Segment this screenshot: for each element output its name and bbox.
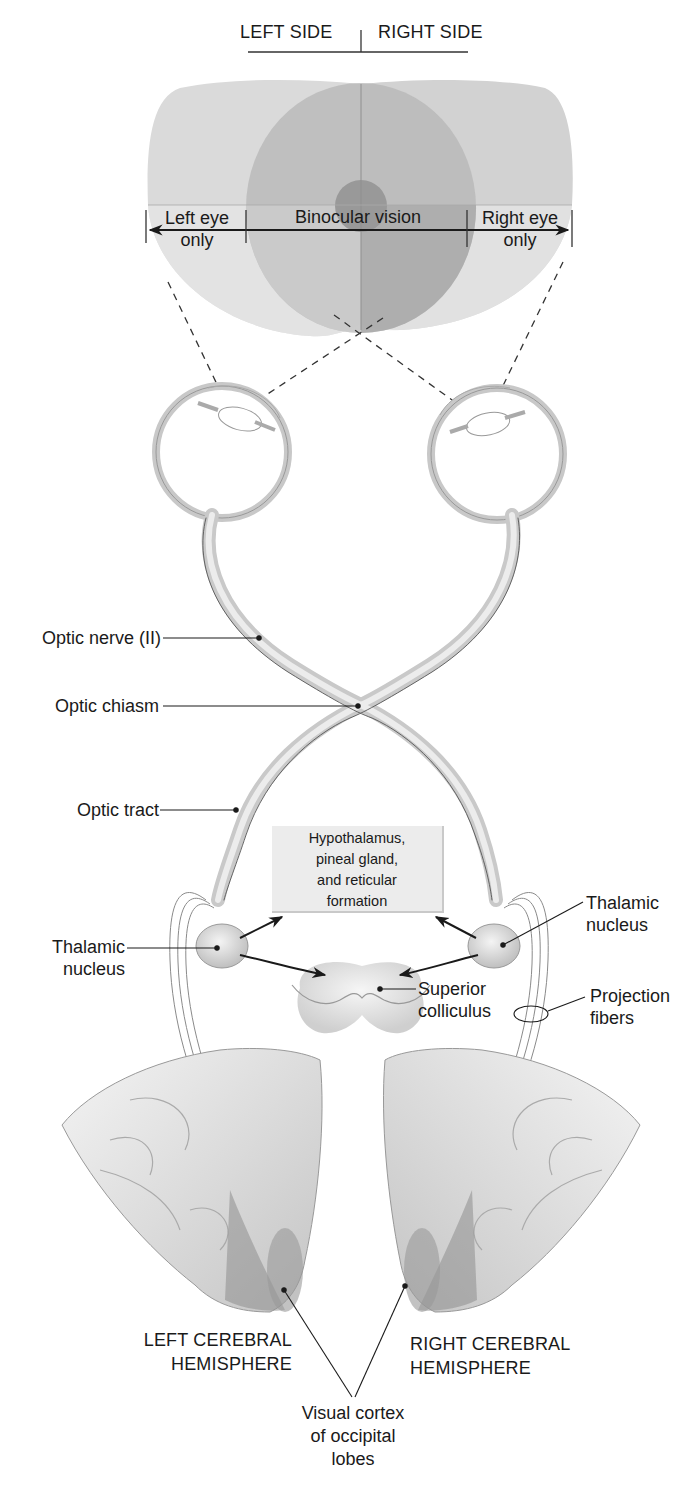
right-side-label: RIGHT SIDE: [378, 22, 483, 43]
thalamic-nucleus-left-label: Thalamic nucleus: [52, 936, 125, 980]
visual-cortex-label: Visual cortex of occipital lobes: [273, 1402, 433, 1471]
left-hemisphere-illustration: [62, 1048, 322, 1312]
left-side-label: LEFT SIDE: [240, 22, 333, 43]
optic-nerve-label: Optic nerve (II): [42, 628, 161, 649]
right-hemisphere-illustration: [383, 1048, 640, 1312]
right-eyeball: [431, 386, 563, 520]
right-thalamic-nucleus: [468, 924, 520, 968]
left-thalamic-nucleus: [196, 924, 248, 968]
binocular-vision-label: Binocular vision: [250, 207, 466, 228]
left-hemisphere-label: LEFT CEREBRAL HEMISPHERE: [144, 1328, 292, 1376]
hypothalamus-box: Hypothalamus, pineal gland, and reticula…: [272, 826, 444, 913]
optic-tract-label: Optic tract: [77, 800, 159, 821]
optic-chiasm-label: Optic chiasm: [55, 696, 159, 717]
projection-fibers-label: Projection fibers: [590, 985, 670, 1029]
left-eyeball: [156, 386, 288, 518]
thalamic-nucleus-right-label: Thalamic nucleus: [586, 892, 659, 936]
superior-colliculus-label: Superior colliculus: [418, 978, 491, 1022]
right-hemisphere-label: RIGHT CEREBRAL HEMISPHERE: [410, 1332, 571, 1380]
right-eye-only-label: Right eye only: [470, 207, 570, 251]
left-eye-only-label: Left eye only: [148, 207, 246, 251]
